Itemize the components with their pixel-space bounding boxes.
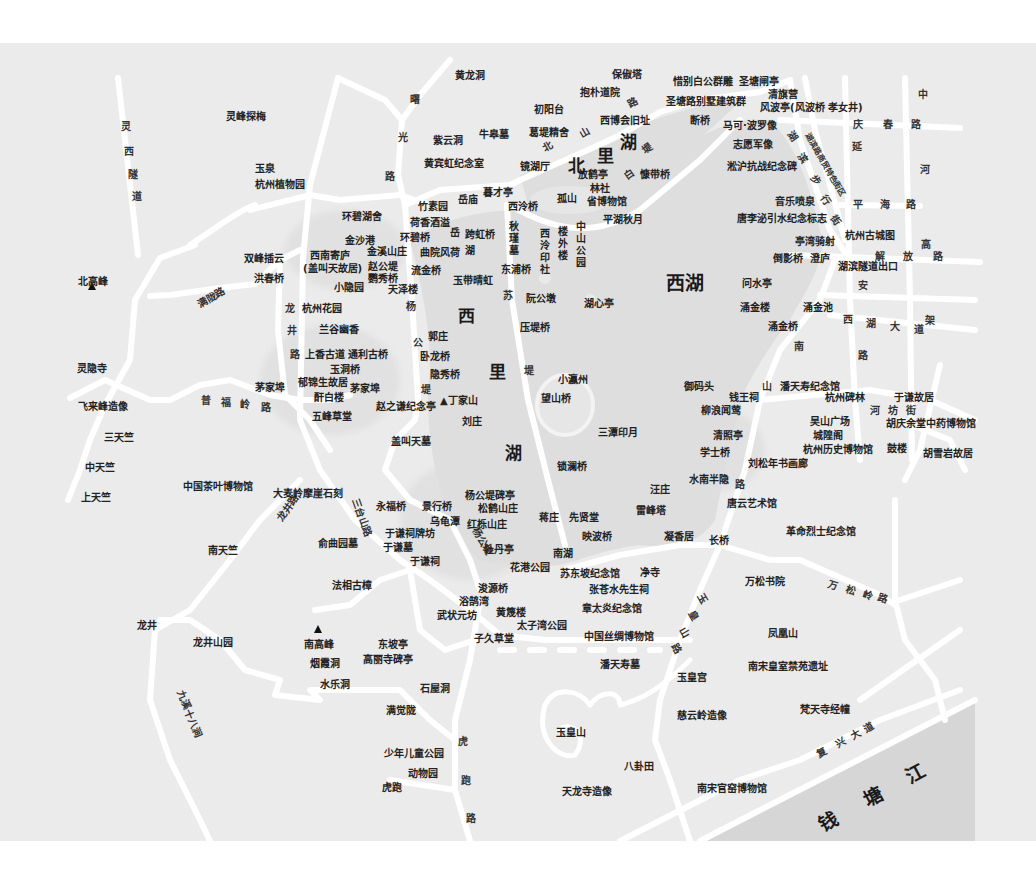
place-label[interactable]: 玉皇宫 xyxy=(677,671,707,683)
place-label[interactable]: 杭州历史博物馆 xyxy=(803,443,873,455)
place-label[interactable]: 革命烈士纪念馆 xyxy=(786,525,856,537)
place-label[interactable]: 洪春桥 xyxy=(254,272,285,284)
place-label[interactable]: 岳 xyxy=(450,226,460,238)
place-label[interactable]: 荷香酒溢 xyxy=(409,216,450,228)
place-label[interactable]: 赵之谦纪念亭 xyxy=(375,400,436,412)
place-label[interactable]: 风波亭(风波桥 孝女井) xyxy=(760,101,863,113)
place-label[interactable]: 灵隐寺 xyxy=(77,362,107,374)
place-label[interactable]: 马可·波罗像 xyxy=(723,119,778,131)
place-label[interactable]: 镜湖厅 xyxy=(520,160,550,172)
place-label[interactable]: 钱王祠 xyxy=(729,391,759,403)
place-label[interactable]: 长桥 xyxy=(709,534,730,546)
place-label[interactable]: 先贤堂 xyxy=(569,511,599,523)
place-label[interactable]: 望山桥 xyxy=(541,392,572,404)
place-label[interactable]: 武状元坊 xyxy=(437,609,477,621)
place-label[interactable]: 湖滨隧道出口 xyxy=(838,260,898,272)
place-label[interactable]: 乌龟潭 xyxy=(430,515,460,527)
place-label[interactable]: 郁锦生故居 xyxy=(297,376,348,388)
place-label[interactable]: 动物园 xyxy=(408,767,438,779)
west-lake-map[interactable]: 西湖北里湖西里湖钱塘江 灵西隧道曙光路北山路白堤湖滨步行街湖滨路商贸特色街区庆春… xyxy=(0,0,1036,881)
place-label[interactable]: 慷带桥 xyxy=(639,168,671,180)
place-label[interactable]: 金溪山庄 xyxy=(366,245,407,257)
place-label[interactable]: 曲院风荷 xyxy=(420,246,460,258)
place-label[interactable]: 中天竺 xyxy=(85,461,115,473)
place-label[interactable]: 小瀛州 xyxy=(557,373,588,385)
place-label[interactable]: 石屋洞 xyxy=(419,682,450,694)
place-label[interactable]: 万松书院 xyxy=(744,575,785,587)
place-label[interactable]: 兰谷幽香 xyxy=(319,323,359,335)
place-label[interactable]: 双峰插云 xyxy=(244,252,284,264)
place-label[interactable]: 灵峰探梅 xyxy=(226,110,266,122)
place-label[interactable]: 西泠印社 xyxy=(539,228,550,275)
place-label[interactable]: 红栎山庄 xyxy=(467,518,507,530)
place-label[interactable]: 问水亭 xyxy=(742,277,772,289)
place-label[interactable]: 胡雪岩故居 xyxy=(923,447,973,459)
place-label[interactable]: 三天竺 xyxy=(104,431,134,443)
place-label[interactable]: 茅家埠 xyxy=(350,382,380,394)
place-label[interactable]: 水南半隐 xyxy=(688,473,729,485)
place-label[interactable]: 唐李泌引水纪念标志 xyxy=(737,212,827,224)
peak-label[interactable]: ▲丁家山 xyxy=(440,394,478,406)
place-label[interactable]: 唐云艺术馆 xyxy=(727,497,777,509)
place-label[interactable]: 郭庄 xyxy=(428,330,448,342)
place-label[interactable]: 黄龙洞 xyxy=(455,69,485,81)
place-label[interactable]: 刘松年书画廊 xyxy=(748,457,808,469)
place-label[interactable]: 杨公堤碑亭 xyxy=(465,489,515,501)
place-label[interactable]: 梵天寺经幢 xyxy=(800,703,850,715)
place-label[interactable]: 中国茶叶博物馆 xyxy=(183,480,253,492)
place-label[interactable]: 锁澜桥 xyxy=(557,460,588,472)
place-label[interactable]: 子久草堂 xyxy=(474,632,514,644)
place-label[interactable]: 隐秀桥 xyxy=(430,368,461,380)
place-label[interactable]: 牛皋墓 xyxy=(479,128,510,140)
place-label[interactable]: 东坡亭 xyxy=(378,638,408,650)
place-label[interactable]: 潘天寿纪念馆 xyxy=(780,380,840,392)
place-label[interactable]: 大麦岭摩崖石刻 xyxy=(273,487,343,499)
place-label[interactable]: 环碧桥 xyxy=(400,231,431,243)
place-label[interactable]: 西泠桥 xyxy=(508,200,539,212)
place-label[interactable]: 南宋皇室禁苑遗址 xyxy=(748,660,828,672)
place-label[interactable]: 倒影桥 xyxy=(772,252,804,264)
place-label[interactable]: 烟霞洞 xyxy=(310,657,340,669)
place-label[interactable]: 酐白楼 xyxy=(314,391,344,403)
place-label[interactable]: 淞沪抗战纪念碑 xyxy=(727,160,797,172)
place-label[interactable]: 抱朴道院 xyxy=(580,86,620,98)
place-label[interactable]: 竹素园 xyxy=(417,200,448,212)
place-label[interactable]: 秋瑾墓 xyxy=(508,220,520,256)
place-label[interactable]: 西博会旧址 xyxy=(600,114,650,126)
place-label[interactable]: 杭州植物园 xyxy=(255,178,305,190)
place-label[interactable]: 苏东坡纪念馆 xyxy=(560,567,620,579)
place-label[interactable]: 西南寄庐 xyxy=(310,249,350,261)
place-label[interactable]: 蒋庄 xyxy=(539,511,559,523)
place-label[interactable]: 于谦故居 xyxy=(894,391,934,403)
place-label[interactable]: (盖叫天故居) xyxy=(303,262,362,274)
place-label[interactable]: 压堤桥 xyxy=(520,321,551,333)
place-label[interactable]: 湖 xyxy=(465,244,475,256)
place-label[interactable]: 慈云岭造像 xyxy=(677,709,728,721)
place-label[interactable]: 于谦墓 xyxy=(383,541,414,553)
place-label[interactable]: 南天竺 xyxy=(208,544,238,556)
place-label[interactable]: 环碧湖舍 xyxy=(342,210,383,222)
place-label[interactable]: 阮公墩 xyxy=(526,292,557,304)
place-label[interactable]: 音乐喷泉 xyxy=(775,195,816,207)
place-label[interactable]: 章太炎纪念馆 xyxy=(582,602,642,614)
place-label[interactable]: 亭湾骑射 xyxy=(795,235,835,247)
place-label[interactable]: 花港公园 xyxy=(510,561,550,573)
place-label[interactable]: 景行桥 xyxy=(422,500,453,512)
place-label[interactable]: 清照亭 xyxy=(713,429,743,441)
place-label[interactable]: 法相古樟 xyxy=(332,579,372,591)
place-label[interactable]: 雷峰塔 xyxy=(636,504,667,516)
place-label[interactable]: 映波桥 xyxy=(582,530,613,542)
place-label[interactable]: 牡丹亭 xyxy=(484,543,514,555)
place-label[interactable]: 东浦桥 xyxy=(501,263,532,275)
place-label[interactable]: 鼓楼 xyxy=(887,442,907,454)
place-label[interactable]: 省博物馆 xyxy=(586,195,627,207)
place-label[interactable]: 涌金楼 xyxy=(740,301,770,313)
place-label[interactable]: 凤凰山 xyxy=(768,627,798,639)
place-label[interactable]: 凝香居 xyxy=(664,530,694,542)
place-label[interactable]: 杭州碑林 xyxy=(825,391,866,403)
place-label[interactable]: 澄庐 xyxy=(810,252,830,264)
place-label[interactable]: 卧龙桥 xyxy=(420,350,451,362)
place-label[interactable]: 葛堤精舍 xyxy=(528,126,570,138)
place-label[interactable]: 岳庙 xyxy=(458,193,478,205)
place-label[interactable]: 涌金桥 xyxy=(768,320,799,332)
